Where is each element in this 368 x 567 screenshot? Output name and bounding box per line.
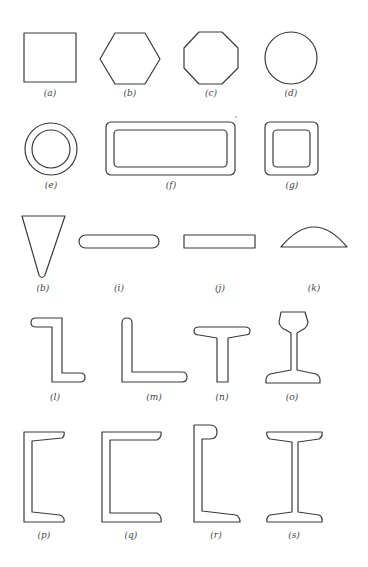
label-e: (e) (45, 180, 57, 190)
ring-shape (25, 123, 77, 175)
circular-segment-shape (281, 227, 347, 247)
square-shape (24, 33, 76, 82)
channel-shape (102, 432, 161, 522)
t-section-shape (194, 327, 250, 382)
label-a: (a) (44, 88, 56, 98)
z-section-shape (31, 318, 85, 382)
angle-section-shape (122, 318, 187, 382)
label-n: (n) (216, 392, 229, 402)
label-k: (k) (308, 283, 320, 293)
label-b: (b) (124, 88, 137, 98)
label-f: (f) (166, 180, 176, 190)
label-h: (b) (37, 283, 50, 293)
label-o: (o) (286, 392, 298, 402)
label-m: (m) (146, 392, 162, 402)
rail-section-shape (266, 312, 320, 383)
circle-shape (265, 32, 317, 84)
i-beam-shape (267, 432, 322, 522)
bulb-channel-shape (194, 425, 240, 522)
wedge-shape (22, 216, 65, 278)
tapered-channel-shape (24, 432, 64, 522)
flat-bar-shape (184, 235, 255, 248)
label-p: (p) (38, 530, 51, 540)
label-s: (s) (288, 530, 300, 540)
scan-artifact-dot (235, 116, 237, 118)
label-r: (r) (210, 530, 221, 540)
hollow-square-shape (265, 122, 318, 175)
rounded-bar-shape (79, 235, 159, 248)
label-q: (q) (125, 530, 138, 540)
shapes-figure: (a) (b) (c) (d) (e) (f) (g) (b) (i) (j) … (0, 0, 368, 567)
label-l: (l) (50, 392, 60, 402)
label-d: (d) (285, 88, 298, 98)
octagon-shape (184, 32, 238, 84)
label-c: (c) (205, 88, 217, 98)
hexagon-shape (100, 33, 160, 84)
label-j: (j) (215, 283, 225, 293)
label-i: (i) (114, 283, 124, 293)
hollow-rectangle-shape (106, 122, 235, 175)
label-g: (g) (286, 180, 299, 190)
